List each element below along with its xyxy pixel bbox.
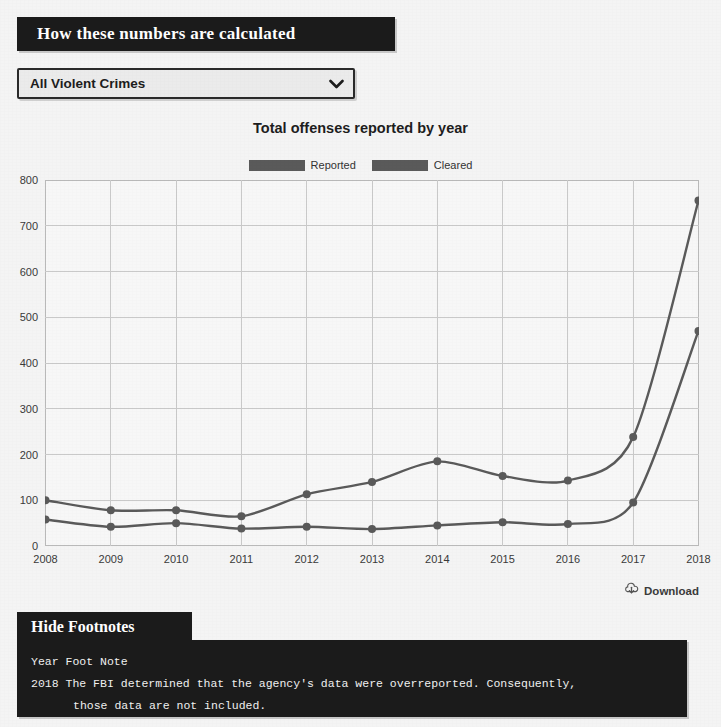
chart-title: Total offenses reported by year [0, 120, 721, 136]
data-point [172, 519, 180, 527]
x-axis-tick-label: 2011 [230, 553, 254, 565]
footnotes-header-row: Year Foot Note [31, 651, 687, 673]
x-axis-tick-label: 2012 [294, 553, 318, 565]
y-axis-tick-label: 700 [20, 220, 38, 232]
legend-item-reported[interactable]: Reported [249, 159, 356, 171]
how-numbers-calculated-label: How these numbers are calculated [37, 24, 296, 44]
data-point [564, 520, 572, 528]
legend-item-cleared[interactable]: Cleared [372, 159, 473, 171]
data-point [499, 518, 507, 526]
cloud-download-icon [624, 582, 639, 599]
chart-legend: Reported Cleared [0, 159, 721, 171]
data-point [45, 515, 50, 523]
data-point [433, 521, 441, 529]
hide-footnotes-toggle[interactable]: Hide Footnotes [17, 612, 192, 642]
x-axis-tick-label: 2013 [360, 553, 384, 565]
x-axis-tick-label: 2009 [99, 553, 123, 565]
data-point [45, 496, 50, 504]
y-axis-tick-label: 0 [32, 540, 38, 552]
footnote-row: 2018 The FBI determined that the agency'… [31, 673, 687, 695]
how-numbers-calculated-banner[interactable]: How these numbers are calculated [17, 17, 395, 51]
data-point [107, 506, 115, 514]
x-axis-tick-label: 2014 [425, 553, 449, 565]
crime-type-select-value: All Violent Crimes [19, 76, 319, 91]
y-axis-tick-label: 500 [20, 311, 38, 323]
crime-type-select[interactable]: All Violent Crimes [17, 68, 355, 99]
data-point [368, 478, 376, 486]
data-point [107, 523, 115, 531]
footnote-note-line1: The FBI determined that the agency's dat… [66, 677, 577, 690]
chevron-down-icon [319, 79, 353, 89]
data-point [695, 327, 700, 335]
legend-label-reported: Reported [311, 159, 356, 171]
y-axis-tick-label: 600 [20, 266, 38, 278]
legend-label-cleared: Cleared [434, 159, 473, 171]
data-point [564, 477, 572, 485]
x-axis-tick-label: 2016 [556, 553, 580, 565]
data-point [303, 490, 311, 498]
data-point [368, 525, 376, 533]
footnotes-body: Year Foot Note 2018 The FBI determined t… [17, 640, 687, 717]
y-axis-tick-label: 400 [20, 357, 38, 369]
data-point [303, 523, 311, 531]
x-axis-tick-label: 2008 [33, 553, 57, 565]
download-label: Download [644, 585, 699, 597]
legend-swatch-reported [249, 160, 305, 171]
legend-swatch-cleared [372, 160, 428, 171]
y-axis-tick-label: 800 [20, 174, 38, 186]
data-point [237, 512, 245, 520]
footnote-note-line2: those data are not included. [73, 699, 266, 712]
x-axis-tick-label: 2015 [490, 553, 514, 565]
data-point [172, 506, 180, 514]
data-point [237, 525, 245, 533]
chart-plot-area[interactable]: 0100200300400500600700800 20082009201020… [45, 180, 699, 546]
y-axis-tick-label: 200 [20, 449, 38, 461]
x-axis-tick-label: 2018 [686, 553, 710, 565]
data-point [629, 433, 637, 441]
hide-footnotes-label: Hide Footnotes [31, 618, 135, 636]
x-axis-tick-label: 2017 [621, 553, 645, 565]
x-axis-tick-label: 2010 [164, 553, 188, 565]
data-point [695, 197, 700, 205]
data-point [499, 472, 507, 480]
footnote-row-continuation: those data are not included. [31, 695, 687, 717]
data-point [433, 457, 441, 465]
footnotes-col-note: Foot Note [66, 655, 128, 668]
y-axis-tick-label: 300 [20, 403, 38, 415]
y-axis-tick-label: 100 [20, 494, 38, 506]
line-chart-canvas [45, 180, 699, 546]
footnotes-block: Hide Footnotes Year Foot Note 2018 The F… [17, 612, 687, 717]
data-point [629, 499, 637, 507]
footnotes-col-year: Year [31, 655, 59, 668]
download-button[interactable]: Download [624, 582, 699, 599]
footnote-year: 2018 [31, 677, 59, 690]
